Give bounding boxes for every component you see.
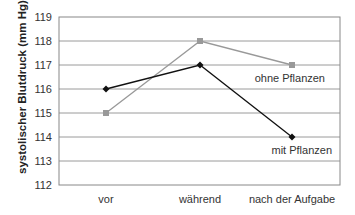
x-tick-label: während [178, 193, 221, 205]
y-tick-label: 118 [34, 35, 52, 47]
y-tick-label: 116 [34, 83, 52, 95]
series-annotation: ohne Pflanzen [255, 72, 325, 84]
data-point-marker [103, 110, 109, 116]
x-tick-label: nach der Aufgabe [249, 193, 335, 205]
y-tick-label: 114 [34, 131, 52, 143]
y-tick-label: 117 [34, 59, 52, 71]
x-tick-label: vor [98, 193, 114, 205]
line-chart: 112113114115116117118119vorwährendnach d… [0, 0, 355, 215]
data-point-marker [289, 62, 295, 68]
series-annotation: mit Pflanzen [271, 144, 332, 156]
y-tick-label: 115 [34, 107, 52, 119]
y-tick-label: 113 [34, 155, 52, 167]
y-tick-label: 119 [34, 11, 52, 23]
y-tick-label: 112 [34, 179, 52, 191]
data-point-marker [103, 86, 110, 93]
data-point-marker [197, 38, 203, 44]
